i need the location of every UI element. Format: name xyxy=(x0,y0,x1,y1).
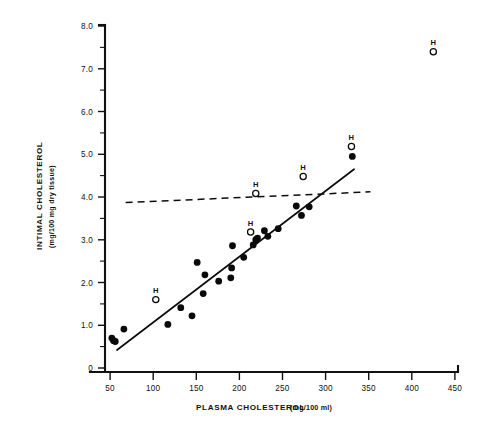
x-tick-label: 200 xyxy=(232,384,247,393)
y-tick-label: 8.0 xyxy=(81,22,93,31)
regression-solid-line xyxy=(117,169,354,350)
y-tick-label: 3.0 xyxy=(81,236,93,245)
x-tick-label: 250 xyxy=(275,384,290,393)
data-point-filled xyxy=(228,265,235,272)
y-axis-units: (mg/100 mg dry tissue) xyxy=(48,165,56,248)
series-control xyxy=(108,153,355,345)
x-tick-label: 400 xyxy=(405,384,420,393)
data-point-filled xyxy=(293,203,300,210)
data-point-open xyxy=(253,190,259,196)
y-tick-label: 5.0 xyxy=(81,150,93,159)
data-point-label: H xyxy=(248,219,254,228)
x-axis-title: PLASMA CHOLESTEROL xyxy=(196,403,305,412)
data-point-label: H xyxy=(153,286,159,295)
x-tick-label: 50 xyxy=(105,384,115,393)
data-point-filled xyxy=(194,259,201,266)
y-tick-label: 7.0 xyxy=(81,65,93,74)
regression-dashed-line xyxy=(126,192,371,203)
y-axis-title: INTIMAL CHOLESTEROL xyxy=(35,142,44,250)
x-tick-label: 450 xyxy=(448,384,463,393)
data-point-filled xyxy=(264,233,271,240)
x-axis-major-ticks xyxy=(110,372,455,380)
data-point-label: H xyxy=(300,163,306,172)
data-point-filled xyxy=(306,203,313,210)
x-axis-tick-labels: 50 100 150 200 250 300 350 400 450 xyxy=(105,384,462,393)
data-point-open xyxy=(300,173,306,179)
data-point-filled xyxy=(229,242,236,249)
x-tick-label: 300 xyxy=(318,384,333,393)
data-points-layer: HHHHHH xyxy=(108,38,436,344)
scatter-plot: 0 1.0 2.0 3.0 4.0 5.0 6.0 7.0 8.0 INTIMA… xyxy=(0,0,487,430)
x-tick-label: 150 xyxy=(189,384,204,393)
data-point-open xyxy=(348,143,354,149)
x-axis: 50 100 150 200 250 300 350 400 450 PLASM… xyxy=(90,366,462,412)
y-axis-tick-labels: 0 1.0 2.0 3.0 4.0 5.0 6.0 7.0 8.0 xyxy=(81,22,93,373)
data-point-filled xyxy=(298,212,305,219)
data-point-filled xyxy=(200,290,207,297)
data-point-filled xyxy=(349,153,356,160)
data-point-open xyxy=(248,229,254,235)
data-point-filled xyxy=(189,312,196,319)
data-point-filled xyxy=(254,235,261,242)
data-point-open xyxy=(430,49,436,55)
y-tick-label: 6.0 xyxy=(81,108,93,117)
data-point-filled xyxy=(227,274,234,281)
figure-container: 0 1.0 2.0 3.0 4.0 5.0 6.0 7.0 8.0 INTIMA… xyxy=(0,0,487,430)
x-tick-label: 350 xyxy=(362,384,377,393)
data-point-label: H xyxy=(431,38,437,47)
data-point-filled xyxy=(164,321,171,328)
data-point-filled xyxy=(112,338,119,345)
y-tick-label: 2.0 xyxy=(81,279,93,288)
x-axis-units: (mg/100 ml) xyxy=(290,404,333,412)
data-point-filled xyxy=(120,326,127,333)
data-point-label: H xyxy=(349,133,355,142)
y-tick-label: 1.0 xyxy=(81,321,93,330)
data-point-filled xyxy=(215,278,222,285)
data-point-filled xyxy=(240,254,247,261)
data-point-filled xyxy=(202,271,209,278)
data-point-filled xyxy=(275,225,282,232)
y-axis: 0 1.0 2.0 3.0 4.0 5.0 6.0 7.0 8.0 INTIMA… xyxy=(35,22,105,373)
data-point-open xyxy=(153,297,159,303)
data-point-label: H xyxy=(253,180,259,189)
data-point-filled xyxy=(177,304,184,311)
y-tick-label: 4.0 xyxy=(81,193,93,202)
x-tick-label: 100 xyxy=(146,384,161,393)
